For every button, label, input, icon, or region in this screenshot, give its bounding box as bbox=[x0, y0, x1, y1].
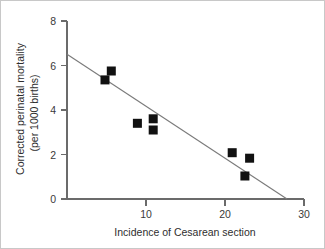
y-tick-label-4: 4 bbox=[50, 104, 56, 116]
data-point bbox=[149, 114, 158, 123]
x-axis-title: Incidence of Cesarean section bbox=[114, 226, 255, 238]
y-axis-title-line1: Corrected perinatal mortality bbox=[14, 42, 26, 175]
data-point bbox=[245, 154, 254, 163]
y-tick-label-2: 2 bbox=[50, 149, 56, 161]
x-tick-label-30: 30 bbox=[298, 208, 310, 220]
data-point bbox=[149, 126, 158, 135]
data-point bbox=[107, 67, 116, 76]
y-tick-label-0: 0 bbox=[50, 193, 56, 205]
trend-line bbox=[67, 54, 287, 199]
data-point bbox=[133, 119, 142, 128]
x-tick-label-20: 20 bbox=[219, 208, 231, 220]
data-point bbox=[101, 75, 110, 84]
y-tick-label-8: 8 bbox=[50, 15, 56, 27]
data-point bbox=[240, 172, 249, 181]
y-axis-title-line2: (per 1000 births) bbox=[28, 74, 40, 151]
x-tick-label-10: 10 bbox=[140, 208, 152, 220]
scatter-plot: 0 2 4 6 8 10 20 30 Incidence of Cesarean… bbox=[1, 1, 325, 249]
chart-figure: 0 2 4 6 8 10 20 30 Incidence of Cesarean… bbox=[0, 0, 325, 249]
data-point bbox=[228, 148, 237, 157]
y-tick-label-6: 6 bbox=[50, 60, 56, 72]
